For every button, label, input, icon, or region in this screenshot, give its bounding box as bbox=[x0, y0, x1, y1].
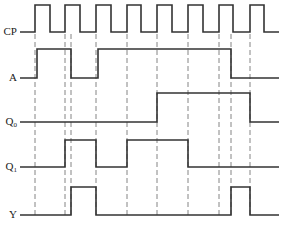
timing-diagram: CPAQ0Q1Y bbox=[0, 0, 282, 230]
waveform-q0 bbox=[20, 93, 279, 122]
waveform-q1 bbox=[20, 140, 279, 167]
signal-label-a: A bbox=[9, 71, 17, 83]
signal-label-q0: Q0 bbox=[6, 115, 18, 129]
signal-labels: CPAQ0Q1Y bbox=[4, 25, 18, 220]
signal-label-cp: CP bbox=[4, 25, 17, 37]
waveform-y bbox=[20, 187, 279, 215]
signal-label-q1: Q1 bbox=[6, 160, 18, 174]
waveform-a bbox=[20, 49, 279, 78]
waveform-cp bbox=[20, 5, 279, 32]
signal-waveforms bbox=[20, 5, 279, 215]
dashed-guide-lines bbox=[35, 34, 250, 215]
signal-label-y: Y bbox=[9, 208, 17, 220]
